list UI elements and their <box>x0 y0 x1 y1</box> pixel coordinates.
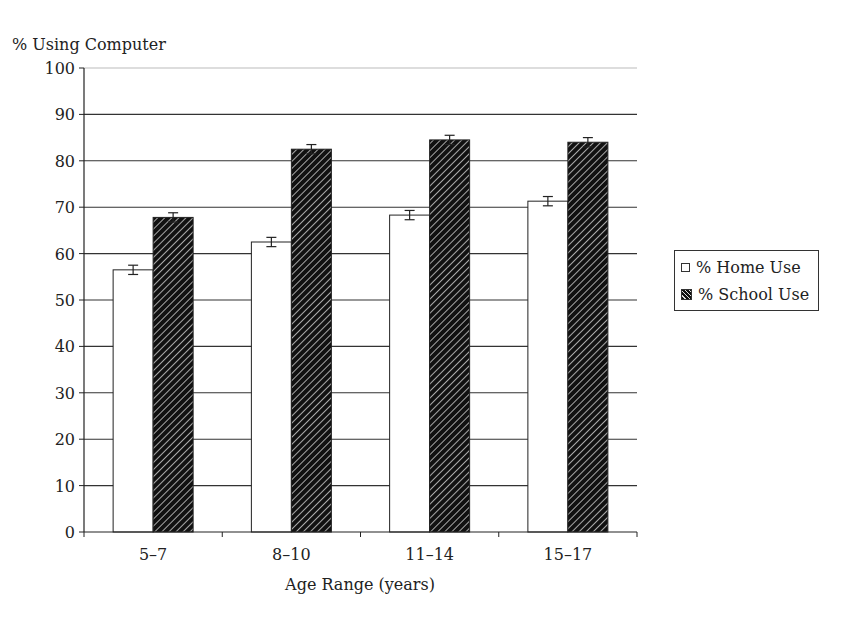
y-tick-label: 0 <box>65 523 75 542</box>
legend-item-school: % School Use <box>681 281 812 308</box>
y-tick-label: 50 <box>55 291 75 310</box>
legend-label-school: % School Use <box>698 285 809 304</box>
bar-school-use <box>430 140 470 532</box>
x-tick-label: 8–10 <box>272 545 311 564</box>
legend-label-home: % Home Use <box>696 258 801 277</box>
x-tick-label: 5–7 <box>139 545 167 564</box>
bar-school-use <box>153 217 193 532</box>
y-tick-label: 70 <box>55 198 75 217</box>
bar-home-use <box>251 242 291 532</box>
x-axis-title: Age Range (years) <box>284 575 435 594</box>
legend: % Home Use % School Use <box>674 250 819 311</box>
y-tick-label: 90 <box>55 105 75 124</box>
bar-home-use <box>390 215 430 532</box>
y-axis-ticks: 0102030405060708090100 <box>44 59 84 542</box>
y-tick-label: 30 <box>55 384 75 403</box>
bars <box>113 135 608 532</box>
school-use-swatch-icon <box>681 289 692 300</box>
y-tick-label: 10 <box>55 477 75 496</box>
y-tick-label: 20 <box>55 430 75 449</box>
legend-item-home: % Home Use <box>681 254 812 281</box>
y-axis-title: % Using Computer <box>12 35 166 54</box>
y-tick-label: 60 <box>55 245 75 264</box>
bar-home-use <box>113 270 153 532</box>
y-tick-label: 80 <box>55 152 75 171</box>
bar-home-use <box>528 201 568 532</box>
bar-chart: % Using Computer 0102030405060708090100 … <box>0 0 859 626</box>
home-use-swatch-icon <box>681 263 690 272</box>
x-axis-ticks: 5–78–1011–1415–17 <box>84 532 637 564</box>
bar-school-use <box>568 142 608 532</box>
x-tick-label: 15–17 <box>544 545 593 564</box>
bar-school-use <box>291 149 331 532</box>
x-tick-label: 11–14 <box>405 545 454 564</box>
y-tick-label: 100 <box>44 59 75 78</box>
y-tick-label: 40 <box>55 337 75 356</box>
